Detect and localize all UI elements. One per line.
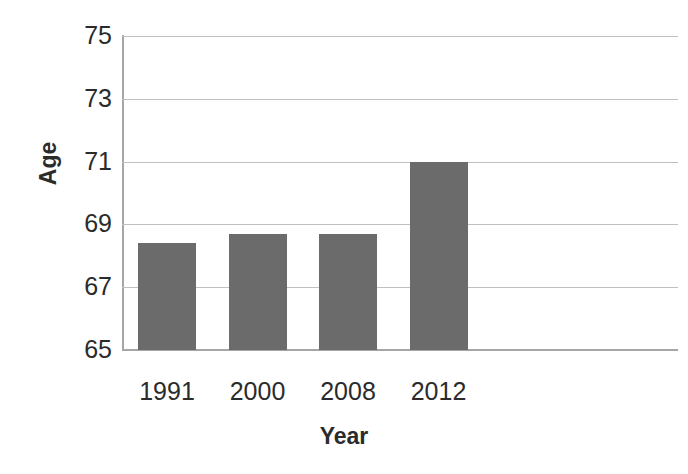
y-tick-label: 75 bbox=[12, 23, 112, 48]
y-tick-label: 67 bbox=[12, 274, 112, 299]
plot-area bbox=[122, 36, 678, 350]
bar bbox=[319, 234, 377, 350]
x-tick-label: 2012 bbox=[379, 378, 499, 405]
bar-chart: Age 75 73 71 69 67 65 1991200020082012 Y… bbox=[0, 0, 688, 474]
y-tick-label: 65 bbox=[12, 337, 112, 362]
bar bbox=[138, 243, 196, 350]
y-tick-label: 69 bbox=[12, 211, 112, 236]
bars-layer bbox=[122, 36, 678, 350]
y-tick-label: 73 bbox=[12, 86, 112, 111]
x-axis-title: Year bbox=[0, 423, 688, 450]
bar bbox=[229, 234, 287, 350]
bar bbox=[410, 162, 468, 350]
y-axis-tick-labels: 75 73 71 69 67 65 bbox=[0, 0, 112, 474]
y-tick-label: 71 bbox=[12, 149, 112, 174]
